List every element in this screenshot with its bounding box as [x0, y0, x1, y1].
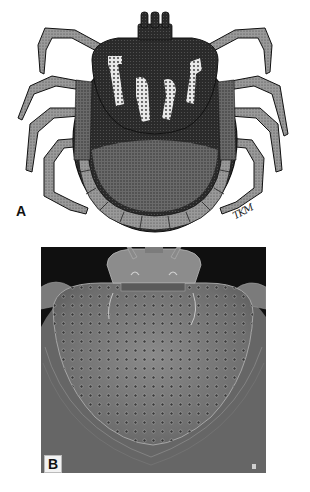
panel-label-a: A: [16, 204, 26, 218]
panel-label-b: B: [44, 455, 62, 473]
panel-a-illustration: A TKM: [0, 0, 310, 240]
basis-capituli: [107, 249, 201, 283]
sem-image: [41, 247, 266, 473]
panel-b-micrograph: B: [41, 247, 266, 473]
figure: A TKM: [0, 0, 310, 492]
tick-drawing: [0, 0, 310, 240]
scale-mark: [252, 464, 256, 469]
